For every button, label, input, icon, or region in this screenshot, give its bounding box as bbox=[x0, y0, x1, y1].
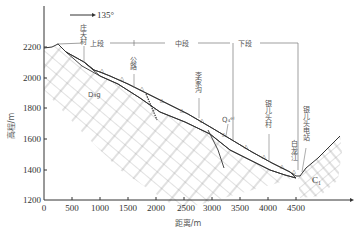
svg-text:△: △ bbox=[280, 163, 284, 169]
svg-text:△: △ bbox=[244, 143, 248, 149]
svg-text:白龙江: 白龙江 bbox=[290, 139, 299, 162]
svg-text:△: △ bbox=[222, 131, 226, 137]
place-gonglu: 公路 bbox=[129, 56, 138, 88]
svg-text:△: △ bbox=[262, 153, 266, 159]
section-upper-label: 上段 bbox=[90, 39, 104, 48]
direction-label: 135° bbox=[97, 10, 115, 20]
svg-text:3000: 3000 bbox=[203, 203, 222, 213]
svg-text:△: △ bbox=[100, 67, 104, 73]
landslide-profile-diagram: 2200 2000 1800 1600 1400 1200 高程/m 0 500… bbox=[0, 0, 354, 236]
q4-leader bbox=[226, 124, 228, 136]
svg-text:△: △ bbox=[140, 85, 144, 91]
section-middle-label: 中段 bbox=[175, 39, 189, 48]
bedrock-area bbox=[44, 44, 296, 210]
place-zhuangtiancun: 庄天村 bbox=[79, 23, 88, 62]
svg-text:4500: 4500 bbox=[287, 203, 306, 213]
svg-text:4000: 4000 bbox=[259, 203, 278, 213]
unit-c1-label: C₁ bbox=[312, 175, 321, 185]
y-ticks: 2200 2000 1800 1600 1400 1200 bbox=[23, 42, 47, 205]
place-lijiagou: 李家沟 bbox=[194, 71, 203, 118]
svg-text:△: △ bbox=[120, 75, 124, 81]
y-axis-label: 高程/m bbox=[6, 113, 16, 140]
svg-text:△: △ bbox=[200, 117, 204, 123]
svg-text:3500: 3500 bbox=[231, 203, 250, 213]
svg-text:1500: 1500 bbox=[119, 203, 138, 213]
svg-text:公路: 公路 bbox=[129, 56, 138, 71]
svg-text:庄天村: 庄天村 bbox=[79, 23, 88, 45]
svg-text:△: △ bbox=[160, 97, 164, 103]
unit-d3g-label: D₃g bbox=[88, 91, 101, 99]
place-bailongjiang: 白龙江 bbox=[290, 139, 299, 162]
svg-text:△: △ bbox=[180, 107, 184, 113]
direction-arrowhead-icon bbox=[92, 13, 96, 17]
unit-q4el-label: Q₄ᵉˡ bbox=[222, 116, 234, 124]
svg-text:500: 500 bbox=[65, 203, 79, 213]
svg-text:2000: 2000 bbox=[147, 203, 166, 213]
svg-text:1800: 1800 bbox=[23, 103, 42, 113]
svg-text:1000: 1000 bbox=[91, 203, 110, 213]
svg-text:银儿头电站: 银儿头电站 bbox=[302, 105, 311, 142]
svg-text:银儿头村: 银儿头村 bbox=[264, 99, 273, 128]
x-axis-label: 距离/m bbox=[175, 218, 202, 228]
section-lower-label: 下段 bbox=[238, 39, 252, 48]
svg-text:0: 0 bbox=[42, 203, 47, 213]
svg-text:△: △ bbox=[292, 168, 296, 174]
svg-text:2000: 2000 bbox=[23, 73, 42, 83]
svg-text:1400: 1400 bbox=[23, 165, 42, 175]
svg-text:2200: 2200 bbox=[23, 42, 42, 52]
svg-text:1600: 1600 bbox=[23, 134, 42, 144]
bedrock-right bbox=[298, 136, 342, 198]
place-dianzhan: 银儿头电站 bbox=[302, 105, 311, 172]
svg-text:2500: 2500 bbox=[177, 203, 196, 213]
svg-text:1200: 1200 bbox=[23, 195, 42, 205]
svg-text:李家沟: 李家沟 bbox=[194, 71, 203, 94]
x-axis-arrow-icon bbox=[350, 198, 354, 202]
